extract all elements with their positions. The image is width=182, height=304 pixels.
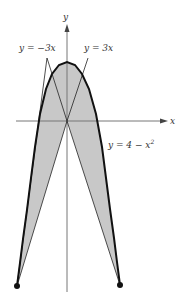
label-parabola: y = 4 − x2 xyxy=(107,138,154,150)
region-diagram: y x y = −3x y = 3x y = 4 − x2 xyxy=(0,0,182,304)
endpoint-left xyxy=(14,283,20,289)
label-y-3x: y = 3x xyxy=(83,43,113,53)
x-axis-label: x xyxy=(170,116,175,126)
y-axis-arrow-icon xyxy=(65,24,70,32)
label-y-neg3x: y = −3x xyxy=(18,43,56,53)
y-axis-label: y xyxy=(62,12,69,22)
label-parabola-sup: 2 xyxy=(149,138,154,145)
endpoint-right xyxy=(117,282,123,288)
shaded-region-right xyxy=(67,62,120,285)
label-parabola-main: y = 4 − x xyxy=(107,140,150,150)
x-axis-arrow-icon xyxy=(160,119,168,124)
